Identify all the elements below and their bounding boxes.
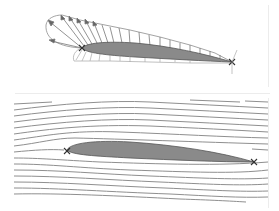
pressure-distribution-panel [0,0,279,92]
airfoil-shape [67,141,254,162]
pressure-distribution-diagram [0,0,279,92]
streamlines-panel [0,92,279,211]
streamlines-diagram [0,92,279,211]
airfoil-shape [82,42,232,62]
